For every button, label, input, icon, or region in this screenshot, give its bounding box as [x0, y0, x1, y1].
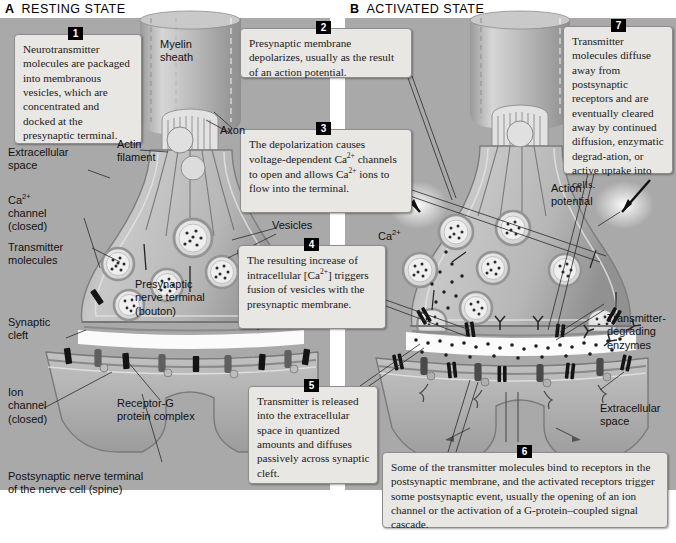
step-badge-4: 4	[304, 238, 319, 251]
label-axon: Axon	[220, 124, 245, 137]
callout-text-1: Neurotransmitter molecules are packaged …	[23, 42, 134, 142]
label-myelin-sheath: Myelin sheath	[160, 38, 193, 65]
step-badge-7: 7	[611, 19, 626, 32]
panel-b-title: BACTIVATED STATE	[350, 2, 484, 16]
callout-step-2: 2 Presynaptic membrane depolarizes, usua…	[240, 28, 412, 78]
callout-step-3: 3 The depolarization causes voltage-depe…	[240, 129, 412, 213]
label-ca-channel-closed: Ca2+channel(closed)	[8, 192, 47, 234]
label-transmitter-molecules: Transmitter molecules	[8, 241, 63, 268]
step-badge-5: 5	[304, 379, 319, 392]
label-extracellular-space-b: Extracellular space	[600, 402, 661, 429]
callout-step-5: 5 Transmitter is released into the extra…	[248, 386, 378, 484]
step-badge-1: 1	[68, 27, 83, 40]
panel-a-title: ARESTING STATE	[5, 2, 126, 16]
callout-text-3: The depolarization causes voltage-depend…	[249, 137, 404, 196]
callout-text-7: Transmitter molecules diffuse away from …	[572, 34, 665, 192]
callout-text-2: Presynaptic membrane depolarizes, usuall…	[249, 36, 404, 79]
callout-step-6: 6 Some of the transmitter molecules bind…	[382, 452, 668, 528]
callout-text-6: Some of the transmitter molecules bind t…	[391, 460, 660, 532]
label-action-potential: Action potential	[551, 182, 593, 209]
label-ion-channel-closed: Ion channel (closed)	[8, 386, 47, 426]
panel-a-title-text: RESTING STATE	[22, 2, 126, 16]
callout-text-5: Transmitter is released into the extrace…	[257, 394, 370, 480]
step-badge-6: 6	[517, 445, 532, 458]
panel-b-letter: B	[350, 2, 360, 16]
step-badge-2: 2	[316, 21, 331, 34]
label-extracellular-space-a: Extracellular space	[8, 146, 69, 173]
panel-b-title-text: ACTIVATED STATE	[367, 2, 485, 16]
step-badge-3: 3	[316, 122, 331, 135]
callout-step-7: 7 Transmitter molecules diffuse away fro…	[563, 26, 673, 174]
callout-step-1: 1 Neurotransmitter molecules are package…	[14, 34, 142, 144]
label-synaptic-cleft: Synaptic cleft	[8, 316, 50, 343]
panel-a-letter: A	[5, 2, 15, 16]
label-vesicles: Vesicles	[272, 219, 312, 232]
label-ca-b: Ca2+	[378, 228, 401, 243]
callout-text-4: The resulting increase of intracellular …	[247, 253, 378, 311]
label-postsynaptic-terminal: Postsynaptic nerve terminal of the nerve…	[8, 470, 143, 497]
figure-canvas: ARESTING STATE BACTIVATED STATE 1 Neurot…	[0, 0, 676, 543]
label-actin-filament: Actin filament	[117, 138, 156, 165]
label-transmitter-degrading-enzymes: Transmitter- degrading enzymes	[607, 312, 666, 352]
label-presynaptic-terminal: Presynaptic nerve terminal (bouton)	[135, 278, 205, 318]
label-receptor-g-complex: Receptor-G protein complex	[117, 397, 195, 424]
callout-step-4: 4 The resulting increase of intracellula…	[238, 245, 386, 329]
